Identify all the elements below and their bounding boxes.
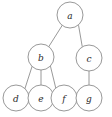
tree-diagram-figure: abcdefg (0, 0, 112, 117)
tree-edge-a-b (49, 25, 62, 46)
tree-node-f: f (51, 85, 77, 111)
tree-node-d: d (3, 85, 29, 111)
tree-edge-b-f (50, 66, 56, 89)
node-label-a: a (67, 11, 72, 21)
tree-diagram-canvas: abcdefg (0, 0, 112, 117)
node-label-e: e (38, 94, 43, 104)
node-label-b: b (38, 53, 44, 63)
tree-edge-b-d (25, 66, 32, 88)
node-label-c: c (86, 54, 91, 64)
tree-node-g: g (76, 85, 102, 111)
tree-edge-a-c (79, 26, 83, 47)
tree-node-c: c (76, 45, 102, 71)
tree-node-e: e (28, 85, 54, 111)
node-label-d: d (13, 94, 19, 104)
tree-node-a: a (57, 2, 83, 28)
tree-node-b: b (28, 44, 54, 70)
node-layer: abcdefg (3, 2, 102, 111)
node-label-g: g (86, 94, 92, 104)
